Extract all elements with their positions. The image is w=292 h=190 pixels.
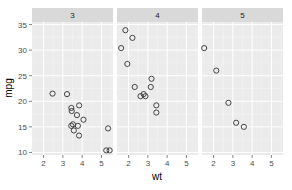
facet-panel-4: 42345	[117, 8, 198, 168]
y-tick-label: 15	[18, 123, 27, 132]
y-axis-title: mpg	[3, 78, 14, 97]
x-tick-label: 4	[165, 159, 170, 168]
y-tick-label: 20	[18, 97, 27, 106]
faceted-scatter-chart: 323454234552345 101520253035 wt mpg	[0, 0, 292, 190]
x-tick-label: 3	[146, 159, 151, 168]
y-tick-label: 35	[18, 21, 27, 30]
facet-strip-label: 5	[240, 11, 245, 20]
x-axis-title: wt	[151, 171, 162, 182]
x-tick-label: 2	[126, 159, 131, 168]
facet-strip-label: 4	[155, 11, 160, 20]
y-axis: 101520253035	[18, 21, 32, 158]
facet-strip-label: 3	[70, 11, 75, 20]
x-tick-label: 2	[41, 159, 46, 168]
x-tick-label: 4	[80, 159, 85, 168]
panels: 323454234552345	[32, 8, 283, 168]
facet-panel-5: 52345	[202, 8, 283, 168]
facet-panel-3: 32345	[32, 8, 113, 168]
x-tick-label: 3	[231, 159, 236, 168]
y-tick-label: 25	[18, 72, 27, 81]
x-tick-label: 5	[269, 159, 274, 168]
y-tick-label: 30	[18, 46, 27, 55]
x-tick-label: 5	[184, 159, 189, 168]
y-tick-label: 10	[18, 148, 27, 157]
x-tick-label: 5	[99, 159, 104, 168]
x-tick-label: 2	[211, 159, 216, 168]
x-tick-label: 3	[61, 159, 66, 168]
x-tick-label: 4	[250, 159, 255, 168]
